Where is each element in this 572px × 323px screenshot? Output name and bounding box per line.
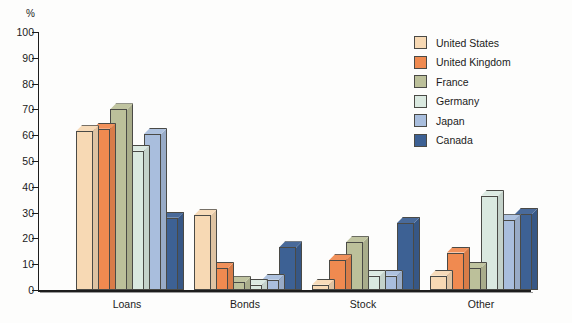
bar-side-face <box>532 208 538 290</box>
legend-label: France <box>436 76 469 88</box>
legend-item-germany[interactable]: Germany <box>414 92 564 112</box>
bar-other-united-states <box>430 276 447 290</box>
bar-front-face <box>312 285 329 290</box>
bar-front-face <box>430 276 447 290</box>
bar-loans-united-states <box>76 131 93 290</box>
legend-label: Canada <box>436 134 473 146</box>
y-tick-label: 40 <box>22 181 34 193</box>
bar-stock-united-states <box>312 285 329 290</box>
legend-item-canada[interactable]: Canada <box>414 131 564 151</box>
legend-label: Germany <box>436 95 479 107</box>
bar-side-face <box>93 125 99 290</box>
bar-bonds-united-states <box>194 215 211 290</box>
bar-front-face <box>76 131 93 290</box>
bar-side-face <box>498 190 504 290</box>
bar-side-face <box>110 123 116 290</box>
y-tick-label: 60 <box>22 129 34 141</box>
legend-swatch-icon <box>414 114 427 127</box>
x-axis-shadow <box>40 292 533 293</box>
y-tick-label: 100 <box>16 26 34 38</box>
legend-item-united-kingdom[interactable]: United Kingdom <box>414 53 564 73</box>
bar-side-face <box>211 209 217 290</box>
category-label-bonds: Bonds <box>230 298 260 310</box>
legend: United StatesUnited KingdomFranceGermany… <box>414 33 564 150</box>
y-tick-label: 90 <box>22 52 34 64</box>
y-tick-label: 70 <box>22 103 34 115</box>
bar-side-face <box>414 217 420 290</box>
legend-swatch-icon <box>414 134 427 147</box>
chart-page: % 0102030405060708090100 LoansBondsStock… <box>0 0 572 323</box>
y-tick-label: 30 <box>22 207 34 219</box>
legend-swatch-icon <box>414 56 427 69</box>
legend-item-united-states[interactable]: United States <box>414 33 564 53</box>
bar-side-face <box>296 241 302 290</box>
bar-front-face <box>194 215 211 290</box>
category-label-stock: Stock <box>350 298 376 310</box>
y-axis-line <box>38 32 39 290</box>
bar-side-face <box>363 236 369 290</box>
legend-label: United Kingdom <box>436 56 511 68</box>
y-tick-label: 80 <box>22 78 34 90</box>
y-tick-label: 50 <box>22 155 34 167</box>
bar-side-face <box>127 103 133 290</box>
y-axis-unit-label: % <box>26 8 35 19</box>
bar-side-face <box>161 128 167 290</box>
legend-item-japan[interactable]: Japan <box>414 111 564 131</box>
grouped-bar-chart: % 0102030405060708090100 LoansBondsStock… <box>0 0 572 323</box>
legend-swatch-icon <box>414 36 427 49</box>
legend-label: Japan <box>436 115 465 127</box>
legend-item-france[interactable]: France <box>414 72 564 92</box>
category-label-loans: Loans <box>113 298 142 310</box>
bar-side-face <box>178 212 184 290</box>
y-tick-label: 10 <box>22 258 34 270</box>
bar-side-face <box>346 254 352 290</box>
legend-swatch-icon <box>414 75 427 88</box>
legend-swatch-icon <box>414 95 427 108</box>
y-tick-label: 20 <box>22 232 34 244</box>
bar-side-face <box>144 145 150 290</box>
bar-side-face <box>464 247 470 290</box>
bar-side-face <box>515 214 521 290</box>
y-tick-label: 0 <box>28 284 34 296</box>
category-label-other: Other <box>468 298 494 310</box>
legend-label: United States <box>436 37 499 49</box>
